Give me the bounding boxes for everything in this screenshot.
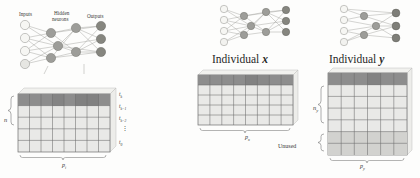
row-label-tk: tk — [119, 91, 122, 99]
caption-individual-y: Individual y — [329, 53, 384, 65]
row-label-vdots: ⋮ — [122, 124, 128, 131]
caption-individual-x: Individual x — [212, 53, 268, 65]
left-network-diagram — [14, 18, 124, 74]
px-label-sub: x — [248, 137, 250, 142]
py-label-sub: y — [363, 166, 365, 171]
grid-top-face — [18, 88, 116, 94]
x-network-diagram — [218, 4, 294, 50]
y-grid — [328, 68, 420, 164]
p-label-sub: i — [65, 165, 66, 170]
left-grid-n-label: n — [4, 116, 7, 123]
row-label-tk2-sub: k−2 — [121, 119, 127, 123]
y-bottom-brace — [330, 158, 404, 163]
row-label-t0-sub: 0 — [121, 143, 123, 147]
x-grid — [198, 70, 302, 132]
left-panel: Inputs Hidden neurons Outputs — [0, 0, 150, 178]
x-grid-top-face — [198, 70, 298, 75]
caption-y-var: y — [379, 53, 384, 65]
grid-side-face — [110, 88, 116, 152]
label-inputs: Inputs — [19, 11, 32, 17]
n-label-text: n — [4, 116, 7, 123]
ny-label-sub: y — [316, 108, 318, 113]
y-grid-side-face — [407, 68, 412, 155]
y-network-output-nodes — [392, 9, 400, 42]
left-grid-p-label: pi — [62, 162, 66, 170]
row-label-t0: t0 — [119, 139, 122, 147]
caption-y-prefix: Individual — [329, 53, 376, 65]
x-network-input-nodes — [220, 5, 227, 45]
row-label-tk-sub: k — [121, 95, 123, 99]
network-output-nodes — [96, 21, 105, 56]
x-network-edges — [224, 9, 286, 42]
caption-x-var: x — [262, 53, 268, 65]
network-edges — [25, 25, 101, 64]
middle-panel: Individual x — [200, 0, 310, 178]
x-grid-p-label: px — [245, 134, 250, 142]
x-grid-side-face — [293, 70, 298, 125]
row-label-tk2: tk−2 — [119, 115, 126, 123]
y-network-hidden-nodes — [360, 12, 379, 38]
row-label-tk1-sub: k−1 — [121, 107, 127, 111]
x-bottom-brace — [200, 128, 290, 133]
y-grid-p-label: py — [360, 163, 365, 171]
y-grid-top-face — [328, 68, 412, 73]
y-network-input-nodes — [340, 5, 347, 45]
y-network-diagram — [338, 4, 414, 50]
leader-lines — [44, 64, 84, 74]
y-network-edges — [344, 9, 396, 42]
left-brace — [8, 96, 14, 125]
right-panel: Individual y — [320, 0, 420, 178]
x-network-output-nodes — [282, 6, 289, 35]
row-label-tk1: tk−1 — [119, 103, 126, 111]
left-grid — [18, 88, 116, 156]
network-input-nodes — [20, 20, 29, 68]
y-grid-ny-label: ny — [313, 104, 318, 113]
caption-x-prefix: Individual — [212, 53, 259, 65]
bottom-brace — [20, 155, 106, 160]
y-grid-unused-label: Unused — [278, 143, 296, 149]
